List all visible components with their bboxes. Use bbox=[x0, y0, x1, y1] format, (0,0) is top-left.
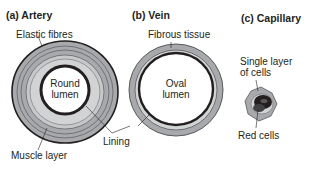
red-cells-label: Red cells bbox=[238, 130, 279, 141]
artery-title: (a) Artery bbox=[6, 10, 52, 21]
elastic-fibres-label: Elastic fibres bbox=[16, 29, 73, 40]
artery-lumen-label: Roundlumen bbox=[43, 78, 87, 100]
single-layer-label: Single layerof cells bbox=[240, 56, 292, 78]
vein-title: (b) Vein bbox=[132, 10, 170, 21]
lining-label: Lining bbox=[103, 136, 130, 147]
muscle-layer-label: Muscle layer bbox=[11, 150, 67, 161]
vein-lumen-label: Ovallumen bbox=[154, 78, 198, 100]
red-cell bbox=[253, 104, 265, 112]
capillary-title: (c) Capillary bbox=[241, 13, 301, 24]
fibrous-tissue-label: Fibrous tissue bbox=[148, 29, 210, 40]
capillary-cross-section bbox=[245, 87, 277, 121]
